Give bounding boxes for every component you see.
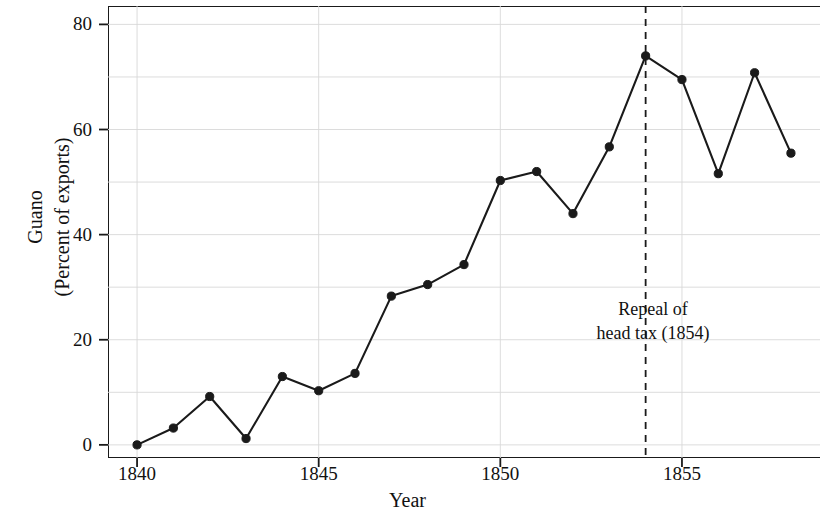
x-axis-title-text: Year	[389, 489, 426, 512]
y-axis-tick-marks	[99, 24, 108, 444]
y-axis-title-line-2: (Percent of exports)	[49, 67, 76, 367]
y-tick-label: 0	[83, 435, 93, 454]
vertical-gridlines	[137, 6, 682, 458]
x-tick-label: 1855	[663, 463, 701, 485]
x-tick-label: 1845	[300, 463, 338, 485]
repeal-annotation: Repeal of head tax (1854)	[543, 297, 763, 346]
annotation-line-1: Repeal of	[543, 297, 763, 321]
chart-figure: 020406080 Repeal of head tax (1854) 1840…	[0, 0, 825, 515]
annotation-line-2: head tax (1854)	[543, 321, 763, 345]
line-chart-plot	[108, 6, 820, 458]
x-axis-title: Year	[0, 489, 825, 512]
guano-series-markers	[133, 52, 795, 449]
y-axis-title: Guano (Percent of exports)	[22, 67, 76, 367]
x-tick-label: 1840	[118, 463, 156, 485]
x-tick-label: 1850	[481, 463, 519, 485]
y-axis-title-line-1: Guano	[22, 67, 49, 367]
y-tick-label: 80	[73, 14, 92, 33]
horizontal-gridlines	[108, 24, 820, 444]
guano-series-line	[137, 56, 791, 445]
